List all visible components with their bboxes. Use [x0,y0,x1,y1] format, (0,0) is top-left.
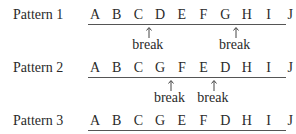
sequence-letter: C [131,8,145,22]
sequence-letter: E [175,114,189,128]
sequence-letter: H [240,114,254,128]
pattern-label: Pattern 2 [13,61,63,75]
sequence-letter: A [88,114,102,128]
sequence-underline [88,24,286,25]
pattern-label: Pattern 3 [13,114,63,128]
sequence-letter: B [110,8,124,22]
break-label: break [154,91,185,105]
sequence-letter: E [175,8,189,22]
sequence-letter: J [283,8,296,22]
sequence-letter: J [283,61,296,75]
sequence-letter: I [262,114,276,128]
sequence-letter: F [197,114,211,128]
sequence-letter: C [131,114,145,128]
break-label: break [197,91,228,105]
sequence-letter: G [153,114,167,128]
break-label: break [132,38,163,52]
sequence-letter: E [197,61,211,75]
sequence-letter: G [218,8,232,22]
sequence-letter: D [153,8,167,22]
sequence-letter: A [88,8,102,22]
sequence-letter: A [88,61,102,75]
sequence-letter: D [218,61,232,75]
sequence-letter: H [240,61,254,75]
sequence-letter: C [131,61,145,75]
sequence-letter: G [153,61,167,75]
sequence-letter: F [197,8,211,22]
pattern-label: Pattern 1 [13,8,63,22]
sequence-underline [88,77,286,78]
sequence-letter: D [218,114,232,128]
sequence-letter: B [110,61,124,75]
break-label: break [219,38,250,52]
sequence-letter: H [240,8,254,22]
sequence-letter: F [175,61,189,75]
sequence-underline [88,130,286,131]
sequence-letter: J [283,114,296,128]
sequence-letter: I [262,8,276,22]
sequence-letter: I [262,61,276,75]
sequence-letter: B [110,114,124,128]
